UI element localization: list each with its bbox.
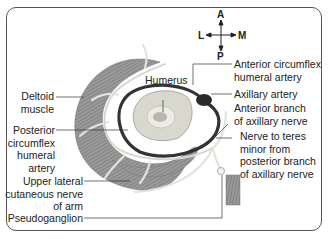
compass-lateral: L bbox=[198, 30, 204, 41]
label-humerus: Humerus bbox=[145, 74, 188, 87]
label-posterior-circumflex-humeral-artery: Posterior circumflex humeral artery bbox=[4, 124, 55, 174]
label-pseudoganglion: Pseudoganglion bbox=[4, 212, 83, 225]
axillary-artery-shape bbox=[196, 94, 212, 106]
label-deltoid: Deltoid muscle bbox=[8, 90, 54, 115]
label-nerve-to-teres-minor: Nerve to teres minor from posterior bran… bbox=[240, 130, 316, 180]
compass-posterior: P bbox=[217, 51, 224, 62]
label-upper-lateral-cutaneous-nerve: Upper lateral cutaneous nerve of arm bbox=[4, 175, 83, 213]
label-anterior-circumflex-humeral-artery: Anterior circumflex humeral artery bbox=[234, 58, 321, 83]
pseudoganglion-shape bbox=[218, 168, 225, 175]
orientation-compass bbox=[206, 20, 236, 51]
teres-minor-block bbox=[226, 175, 240, 205]
label-axillary-artery: Axillary artery bbox=[234, 88, 298, 101]
compass-anterior: A bbox=[217, 9, 224, 20]
compass-medial: M bbox=[238, 30, 246, 41]
label-anterior-branch-axillary-nerve: Anterior branch of axillary nerve bbox=[234, 102, 308, 127]
